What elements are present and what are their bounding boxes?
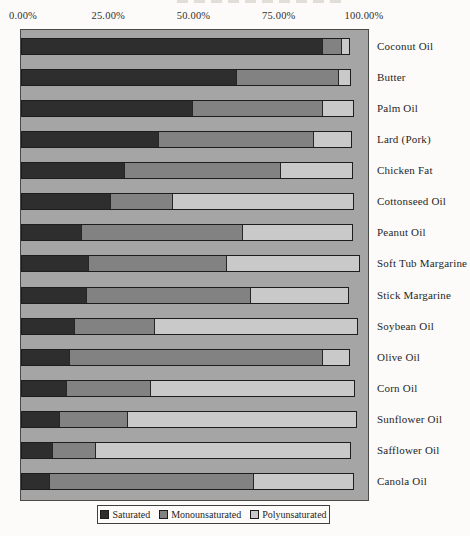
category-label-cottonseed-oil: Cottonseed Oil [377,193,446,210]
bar-safflower-oil [21,442,351,459]
category-label-stick-margarine: Stick Margarine [377,287,451,304]
segment-monounsaturated-canola-oil [49,474,253,489]
segment-saturated-safflower-oil [22,443,52,458]
legend-swatch-monounsaturated [159,510,168,519]
segment-monounsaturated-palm-oil [192,101,321,116]
category-label-butter: Butter [377,69,406,86]
bar-lard-pork [21,131,352,148]
category-label-olive-oil: Olive Oil [377,349,420,366]
segment-saturated-soybean-oil [22,319,74,334]
segment-monounsaturated-butter [236,70,339,85]
segment-saturated-lard-pork [22,132,158,147]
legend-label: Polyunsaturated [262,509,326,520]
segment-polyunsaturated-soft-tub-margarine [226,256,360,271]
category-label-peanut-oil: Peanut Oil [377,224,426,241]
segment-monounsaturated-coconut-oil [322,39,341,54]
segment-polyunsaturated-peanut-oil [242,225,352,240]
bar-stick-margarine [21,287,349,304]
segment-polyunsaturated-canola-oil [253,474,353,489]
category-label-sunflower-oil: Sunflower Oil [377,411,442,428]
segment-monounsaturated-olive-oil [69,350,322,365]
segment-monounsaturated-lard-pork [158,132,313,147]
segment-monounsaturated-soybean-oil [74,319,154,334]
bar-corn-oil [21,380,355,397]
segment-saturated-cottonseed-oil [22,194,110,209]
segment-polyunsaturated-chicken-fat [280,163,352,178]
plot-area [20,29,369,501]
segment-saturated-canola-oil [22,474,49,489]
category-label-corn-oil: Corn Oil [377,380,417,397]
segment-polyunsaturated-stick-margarine [250,288,348,303]
bar-butter [21,69,351,86]
bar-palm-oil [21,100,354,117]
axis-tick-0-00: 0.00% [9,10,37,21]
segment-saturated-coconut-oil [22,39,322,54]
segment-monounsaturated-soft-tub-margarine [88,256,226,271]
axis-tick-25-00: 25.00% [91,10,125,21]
legend-label: Monounsaturated [171,509,241,520]
segment-saturated-butter [22,70,236,85]
legend-label: Saturated [112,509,150,520]
segment-saturated-olive-oil [22,350,69,365]
segment-monounsaturated-sunflower-oil [59,412,127,427]
axis-tick-75-00: 75.00% [262,10,296,21]
scanned-chart-page: { "page": { "background_color": "#fcfbf9… [0,0,470,536]
bar-canola-oil [21,473,354,490]
segment-monounsaturated-safflower-oil [52,443,95,458]
axis-tick-50-00: 50.00% [177,10,211,21]
segment-monounsaturated-cottonseed-oil [110,194,172,209]
segment-saturated-soft-tub-margarine [22,256,88,271]
segment-monounsaturated-corn-oil [66,381,150,396]
segment-polyunsaturated-sunflower-oil [127,412,356,427]
segment-polyunsaturated-corn-oil [150,381,353,396]
segment-monounsaturated-chicken-fat [124,163,279,178]
segment-polyunsaturated-soybean-oil [154,319,357,334]
segment-saturated-palm-oil [22,101,192,116]
category-label-lard-pork: Lard (Pork) [377,131,431,148]
axis-tick-100-00: 100.00% [344,10,383,21]
bar-sunflower-oil [21,411,357,428]
legend-item-polyunsaturated: Polyunsaturated [250,509,326,520]
legend-item-saturated: Saturated [100,509,150,520]
cropped-title-remnant [177,0,342,3]
segment-polyunsaturated-coconut-oil [341,39,349,54]
segment-saturated-chicken-fat [22,163,124,178]
bar-coconut-oil [21,38,350,55]
segment-polyunsaturated-butter [338,70,350,85]
bar-cottonseed-oil [21,193,354,210]
category-label-palm-oil: Palm Oil [377,100,418,117]
segment-polyunsaturated-cottonseed-oil [172,194,352,209]
bar-soft-tub-margarine [21,255,360,272]
segment-polyunsaturated-palm-oil [322,101,353,116]
bar-peanut-oil [21,224,353,241]
category-label-soft-tub-margarine: Soft Tub Margarine [377,255,467,272]
segment-saturated-corn-oil [22,381,66,396]
segment-polyunsaturated-olive-oil [322,350,349,365]
category-label-soybean-oil: Soybean Oil [377,318,434,335]
bar-olive-oil [21,349,350,366]
legend-swatch-saturated [100,510,109,519]
segment-monounsaturated-peanut-oil [81,225,241,240]
category-label-coconut-oil: Coconut Oil [377,38,433,55]
segment-saturated-sunflower-oil [22,412,59,427]
segment-monounsaturated-stick-margarine [86,288,250,303]
bar-chicken-fat [21,162,353,179]
segment-polyunsaturated-lard-pork [313,132,351,147]
category-label-canola-oil: Canola Oil [377,473,427,490]
segment-polyunsaturated-safflower-oil [95,443,350,458]
segment-saturated-peanut-oil [22,225,81,240]
segment-saturated-stick-margarine [22,288,86,303]
bar-soybean-oil [21,318,358,335]
legend-item-monounsaturated: Monounsaturated [159,509,241,520]
legend: SaturatedMonounsaturatedPolyunsaturated [97,505,330,524]
legend-swatch-polyunsaturated [250,510,259,519]
category-label-chicken-fat: Chicken Fat [377,162,433,179]
category-label-safflower-oil: Safflower Oil [377,442,440,459]
